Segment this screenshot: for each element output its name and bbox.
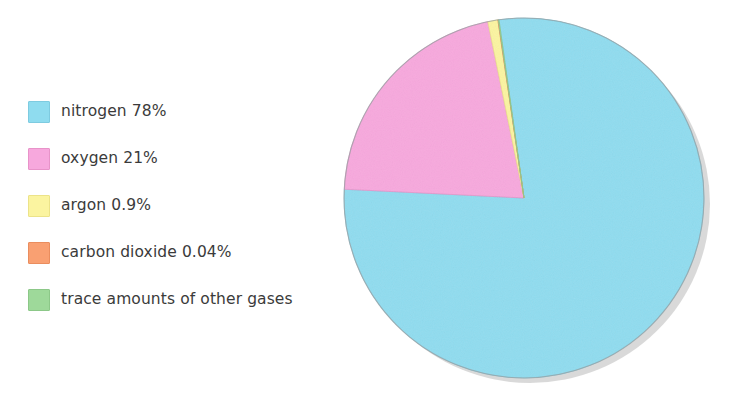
chart-legend: nitrogen 78% oxygen 21% argon 0.9% carbo… bbox=[28, 100, 328, 335]
pie-chart: nitrogen 78%oxygen 21%argon 0.9%carbon d… bbox=[338, 14, 718, 388]
legend-swatch-argon bbox=[28, 195, 50, 217]
legend-label-oxygen: oxygen 21% bbox=[61, 151, 158, 167]
legend-item-nitrogen[interactable]: nitrogen 78% bbox=[28, 100, 328, 124]
legend-item-argon[interactable]: argon 0.9% bbox=[28, 194, 328, 218]
legend-swatch-oxygen bbox=[28, 148, 50, 170]
legend-label-argon: argon 0.9% bbox=[61, 198, 151, 214]
pie-chart-svg: nitrogen 78%oxygen 21%argon 0.9%carbon d… bbox=[338, 14, 718, 388]
legend-swatch-nitrogen bbox=[28, 101, 50, 123]
legend-swatch-carbon-dioxide bbox=[28, 242, 50, 264]
legend-label-nitrogen: nitrogen 78% bbox=[61, 104, 167, 120]
pie-slice-group: nitrogen 78%oxygen 21%argon 0.9%carbon d… bbox=[344, 18, 704, 378]
legend-item-trace-gases[interactable]: trace amounts of other gases bbox=[28, 288, 328, 312]
legend-swatch-trace-gases bbox=[28, 289, 50, 311]
legend-item-oxygen[interactable]: oxygen 21% bbox=[28, 147, 328, 171]
legend-label-trace-gases: trace amounts of other gases bbox=[61, 292, 293, 308]
legend-label-carbon-dioxide: carbon dioxide 0.04% bbox=[61, 245, 232, 261]
legend-item-carbon-dioxide[interactable]: carbon dioxide 0.04% bbox=[28, 241, 328, 265]
atmosphere-composition-pie-figure: nitrogen 78% oxygen 21% argon 0.9% carbo… bbox=[0, 0, 741, 404]
